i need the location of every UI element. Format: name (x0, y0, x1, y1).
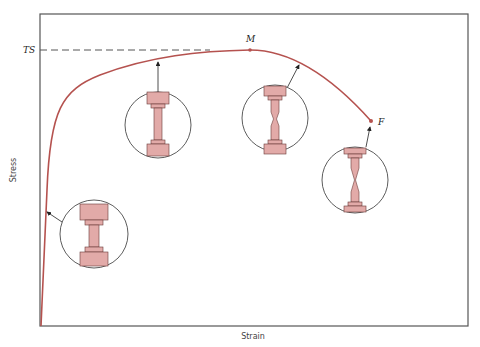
y-axis-label: Stress (9, 158, 18, 183)
arrow-icon (366, 127, 370, 147)
arrow-icon (286, 65, 299, 90)
x-axis-label: Strain (241, 332, 265, 341)
specimen-elastic (47, 200, 128, 268)
specimen-fracture (322, 127, 388, 213)
max-point-marker (248, 48, 252, 52)
specimen-uniform-plastic (125, 62, 191, 158)
plot-frame (40, 14, 468, 326)
stress-strain-diagram: TS M F Strain Stress (0, 0, 480, 347)
m-label: M (245, 34, 256, 44)
f-label: F (377, 117, 385, 127)
arrow-icon (47, 212, 62, 222)
stress-strain-curve (41, 50, 371, 326)
specimen-necking (242, 65, 308, 154)
fracture-point-marker (369, 119, 373, 123)
ts-label: TS (23, 45, 35, 55)
